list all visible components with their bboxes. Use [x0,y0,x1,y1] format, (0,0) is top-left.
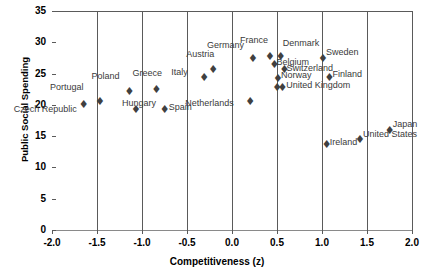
diamond-marker-icon: ♦ [322,141,328,149]
gridline-vertical [187,11,188,230]
y-tick-mark [52,230,56,231]
diamond-marker-icon: ♦ [318,55,324,63]
gridline-vertical [277,11,278,230]
x-tick-mark [367,230,368,234]
gridline-vertical [97,11,98,230]
y-tick-label: 5 [12,193,46,204]
diamond-marker-icon: ♦ [79,101,85,109]
y-tick-mark [52,74,56,75]
y-tick-label: 30 [12,36,46,47]
y-tick-label: 0 [12,224,46,235]
x-tick-label: -1.0 [122,237,162,248]
plot-area: -2.0-1.5-1.0-0.50.00.51.01.52.0 05101520… [52,11,412,230]
y-tick-mark [52,199,56,200]
diamond-marker-icon: ♦ [152,86,158,94]
scatter-chart-figure: Public Social Spending Competitiveness (… [0,0,434,277]
y-tick-label: 35 [12,5,46,16]
x-tick-mark [277,230,278,234]
x-tick-label: 2.0 [392,237,432,248]
y-tick-mark [52,11,56,12]
x-tick-mark [412,230,413,234]
x-tick-label: 0.5 [257,237,297,248]
x-tick-label: -1.5 [77,237,117,248]
x-axis-title: Competitiveness (z) [0,256,434,267]
gridline-vertical [322,11,323,230]
x-tick-mark [142,230,143,234]
y-tick-label: 10 [12,161,46,172]
diamond-marker-icon: ♦ [324,74,330,82]
x-tick-label: 1.5 [347,237,387,248]
y-tick-mark [52,167,56,168]
x-tick-label: 1.0 [302,237,342,248]
gridline-vertical [367,11,368,230]
diamond-marker-icon: ♦ [199,74,205,82]
diamond-marker-icon: ♦ [208,66,214,74]
diamond-marker-icon: ♦ [385,127,391,135]
y-tick-label: 25 [12,68,46,79]
y-tick-label: 15 [12,130,46,141]
y-tick-mark [52,136,56,137]
diamond-marker-icon: ♦ [270,61,276,69]
diamond-marker-icon: ♦ [160,106,166,114]
x-tick-label: -2.0 [32,237,72,248]
x-tick-label: 0.0 [212,237,252,248]
diamond-marker-icon: ♦ [248,55,254,63]
x-tick-mark [232,230,233,234]
diamond-marker-icon: ♦ [95,98,101,106]
x-tick-mark [322,230,323,234]
diamond-marker-icon: ♦ [125,88,131,96]
x-tick-label: -0.5 [167,237,207,248]
gridline-vertical [142,11,143,230]
diamond-marker-icon: ♦ [276,53,282,61]
x-tick-mark [187,230,188,234]
diamond-marker-icon: ♦ [278,84,284,92]
y-tick-mark [52,42,56,43]
x-tick-mark [97,230,98,234]
diamond-marker-icon: ♦ [245,98,251,106]
diamond-marker-icon: ♦ [355,136,361,144]
